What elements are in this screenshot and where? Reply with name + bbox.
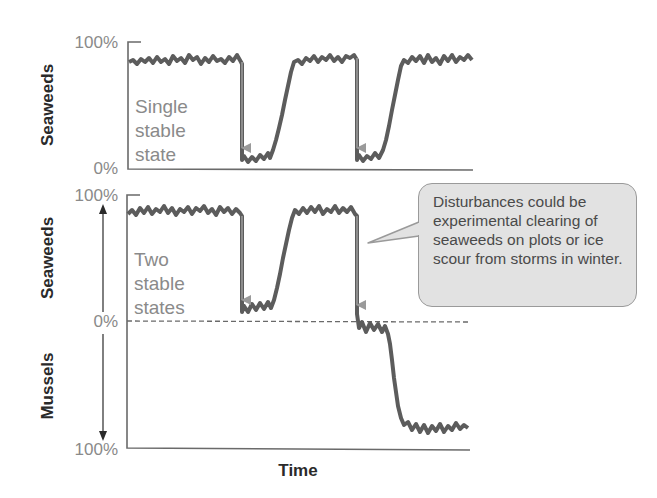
bottom-y-tick-100-bottom: 100%: [75, 440, 118, 459]
top-y-tick-0: 0%: [93, 159, 118, 178]
bottom-seaweed-mussel-trace: [128, 206, 468, 433]
up-arrowhead-icon: [99, 204, 107, 214]
callout-text: Disturbances could be experimental clear…: [433, 193, 623, 267]
callout-pointer-joint: [418, 223, 421, 235]
callout-pointer: [368, 222, 419, 243]
top-panel: Seaweeds 100% 0% Single stable state: [38, 33, 473, 178]
x-axis-title: Time: [278, 461, 317, 480]
bottom-panel-note: Two stable states: [134, 249, 190, 318]
top-y-tick-100: 100%: [75, 33, 118, 52]
bottom-y-tick-0: 0%: [93, 312, 118, 331]
disturbance-callout: Disturbances could be experimental clear…: [418, 183, 637, 307]
top-panel-note: Single stable state: [135, 96, 193, 165]
bottom-y-axis-title-seaweeds: Seaweeds: [38, 217, 57, 299]
top-y-axis-title: Seaweeds: [38, 64, 57, 146]
bottom-y-axis-title-mussels: Mussels: [38, 352, 57, 419]
bottom-y-tick-100-top: 100%: [75, 186, 118, 205]
zero-dashed-line: [127, 321, 470, 322]
